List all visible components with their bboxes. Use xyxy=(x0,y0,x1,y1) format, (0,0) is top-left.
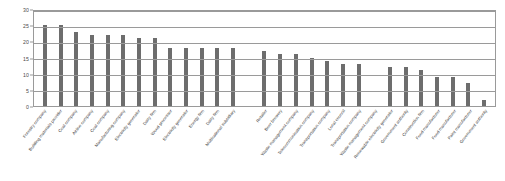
bar[interactable] xyxy=(325,61,329,106)
y-axis-tick-label: 25 xyxy=(23,23,29,29)
bar[interactable] xyxy=(200,48,204,106)
bar[interactable] xyxy=(388,67,392,106)
bar[interactable] xyxy=(357,64,361,106)
bar[interactable] xyxy=(43,25,47,106)
bar[interactable] xyxy=(294,54,298,106)
y-axis-tick-label: 15 xyxy=(23,56,29,62)
y-axis-tick-label: 20 xyxy=(23,39,29,45)
bar[interactable] xyxy=(404,67,408,106)
y-axis-tick-label: 0 xyxy=(26,104,29,110)
x-axis-tick-label: Retailer xyxy=(255,109,268,123)
bar[interactable] xyxy=(168,48,172,106)
y-axis-tick-label: 5 xyxy=(26,88,29,94)
y-axis: 051015202530 xyxy=(0,0,33,107)
bar[interactable] xyxy=(121,35,125,106)
y-axis-tick-label: 30 xyxy=(23,7,29,13)
bar[interactable] xyxy=(106,35,110,106)
gridline xyxy=(34,91,495,92)
bar[interactable] xyxy=(59,25,63,106)
gridline xyxy=(34,59,495,60)
bar[interactable] xyxy=(341,64,345,106)
gridline xyxy=(34,27,495,28)
bar[interactable] xyxy=(137,38,141,106)
gridline xyxy=(34,11,495,12)
y-axis-tick-label: 10 xyxy=(23,72,29,78)
bar-chart: 051015202530 Forestry companyBuilding ma… xyxy=(0,0,505,181)
x-label-slot: Multinational subsidiary xyxy=(225,108,241,181)
bar[interactable] xyxy=(215,48,219,106)
bar[interactable] xyxy=(482,100,486,106)
plot-area xyxy=(33,10,496,107)
bar[interactable] xyxy=(231,48,235,106)
gridline xyxy=(34,75,495,76)
bar[interactable] xyxy=(184,48,188,106)
bar[interactable] xyxy=(310,58,314,107)
bar[interactable] xyxy=(466,83,470,106)
x-label-slot: Government authority xyxy=(477,108,493,181)
bar[interactable] xyxy=(278,54,282,106)
bar[interactable] xyxy=(153,38,157,106)
gridline xyxy=(34,43,495,44)
bar[interactable] xyxy=(90,35,94,106)
x-axis-labels: Forestry companyBuilding materials provi… xyxy=(33,108,496,181)
